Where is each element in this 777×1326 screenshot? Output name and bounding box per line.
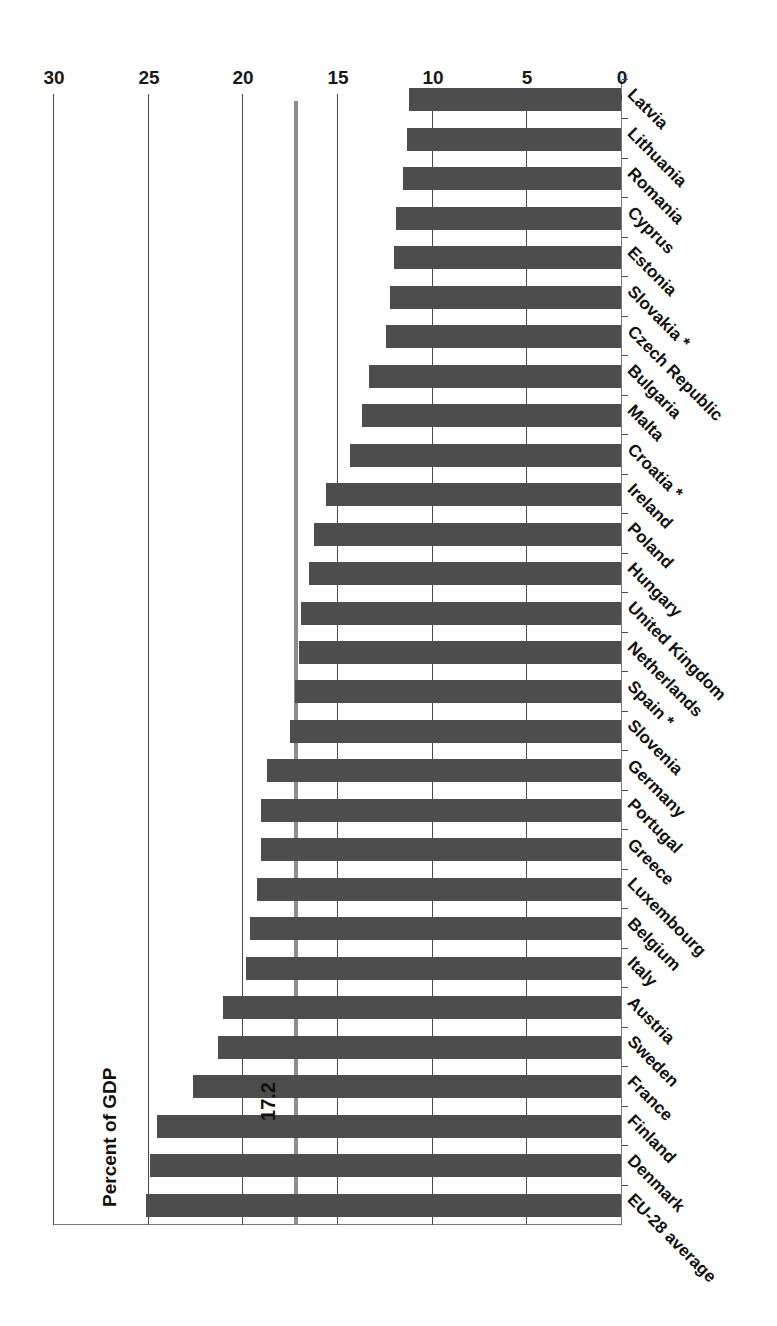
bar-row: Sweden: [54, 1028, 622, 1067]
category-tick: [622, 1185, 628, 1186]
bar-row: Denmark: [54, 1146, 622, 1185]
bar-row: Spain *: [54, 672, 622, 711]
bar: [246, 957, 621, 980]
category-tick: [622, 355, 628, 356]
bar-row: Austria: [54, 988, 622, 1027]
bar: [386, 325, 621, 348]
bar-row: Lithuania: [54, 120, 622, 159]
bar-row: Slovenia: [54, 712, 622, 751]
bar-row: EU-28 average: [54, 1186, 622, 1225]
category-tick: [622, 1027, 628, 1028]
category-tick: [622, 750, 628, 751]
bar: [369, 365, 621, 388]
bar: [314, 523, 621, 546]
category-tick: [622, 790, 628, 791]
category-tick: [622, 829, 628, 830]
category-tick: [622, 276, 628, 277]
bar-row: Estonia: [54, 238, 622, 277]
bar: [157, 1115, 621, 1138]
bar: [146, 1194, 621, 1217]
bar: [218, 1036, 621, 1059]
bar: [267, 759, 621, 782]
bar-row: Hungary: [54, 554, 622, 593]
category-tick: [622, 908, 628, 909]
bar: [394, 246, 621, 269]
bar: [362, 404, 621, 427]
category-tick: [622, 119, 628, 120]
bar-row: Czech Republic: [54, 317, 622, 356]
bar-row: France: [54, 1067, 622, 1106]
bar: [261, 799, 621, 822]
bar: [299, 641, 621, 664]
category-tick: [622, 395, 628, 396]
category-tick: [622, 316, 628, 317]
bar: [403, 167, 621, 190]
category-tick: [622, 553, 628, 554]
bar: [390, 286, 621, 309]
bar-row: Slovakia *: [54, 277, 622, 316]
bar: [257, 878, 621, 901]
category-tick: [622, 237, 628, 238]
bar: [290, 720, 621, 743]
bar-row: Croatia *: [54, 435, 622, 474]
average-value-label: 17.2: [257, 1083, 280, 1122]
bar-row: Germany: [54, 751, 622, 790]
category-tick: [622, 158, 628, 159]
bar-row: Greece: [54, 830, 622, 869]
category-tick: [622, 513, 628, 514]
plot-area: 051015202530 LatviaLithuaniaRomaniaCypru…: [54, 80, 622, 1225]
bar-row: Bulgaria: [54, 356, 622, 395]
bar: [150, 1154, 621, 1177]
bar: [301, 602, 621, 625]
category-tick: [622, 474, 628, 475]
category-tick: [622, 434, 628, 435]
category-tick: [622, 987, 628, 988]
bar-row: Luxembourg: [54, 870, 622, 909]
category-tick: [622, 1106, 628, 1107]
category-tick: [622, 592, 628, 593]
bar: [295, 681, 621, 704]
bar-row: Finland: [54, 1107, 622, 1146]
bar: [350, 444, 621, 467]
bar: [223, 996, 621, 1019]
bar-row: Poland: [54, 514, 622, 553]
bar-row: Portugal: [54, 791, 622, 830]
bar: [407, 128, 621, 151]
category-tick: [622, 711, 628, 712]
bar-row: Cyprus: [54, 198, 622, 237]
bar-row: Latvia: [54, 80, 622, 119]
category-tick: [622, 948, 628, 949]
category-tick: [622, 632, 628, 633]
category-tick: [622, 197, 628, 198]
category-tick: [622, 1066, 628, 1067]
bar-row: Malta: [54, 396, 622, 435]
chart-canvas: 051015202530 LatviaLithuaniaRomaniaCypru…: [0, 0, 777, 1326]
bar-row: United Kingdom: [54, 593, 622, 632]
bar: [309, 562, 621, 585]
category-tick: [622, 1145, 628, 1146]
bar: [409, 88, 621, 111]
bar-row: Ireland: [54, 475, 622, 514]
bar: [261, 838, 621, 861]
category-tick: [622, 79, 628, 80]
category-label: Latvia: [623, 85, 672, 134]
bar: [396, 207, 621, 230]
axis-title: Percent of GDP: [99, 1068, 121, 1207]
bar-row: Belgium: [54, 909, 622, 948]
category-tick: [622, 869, 628, 870]
bar-row: Italy: [54, 949, 622, 988]
bar: [250, 917, 621, 940]
bar-row: Romania: [54, 159, 622, 198]
category-tick: [622, 671, 628, 672]
bar: [326, 483, 621, 506]
bar-row: Netherlands: [54, 633, 622, 672]
